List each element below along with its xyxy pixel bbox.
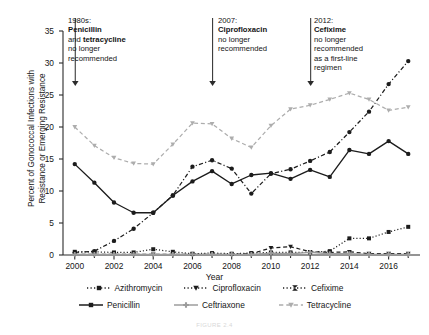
data-point-tetracycline-2002 xyxy=(112,156,117,160)
series-ciprofloxacin xyxy=(73,59,411,255)
x-tick-label-2006: 2006 xyxy=(175,261,209,271)
data-point-ciprofloxacin-2008 xyxy=(230,166,234,170)
data-point-ciprofloxacin-2006 xyxy=(190,164,194,168)
y-tick-label-5: 5 xyxy=(32,218,54,228)
x-tick-label-2010: 2010 xyxy=(254,261,288,271)
data-point-azithromycin-2004 xyxy=(151,247,155,251)
data-point-penicillin-2010 xyxy=(269,171,273,175)
legend-swatch-cefixime xyxy=(282,282,308,294)
legend-label-ciprofloxacin: Ciprofloxacin xyxy=(212,283,260,293)
annotation-2012-line3: no longer xyxy=(314,35,402,44)
series-line-penicillin xyxy=(75,141,408,213)
data-point-ciprofloxacin-2002 xyxy=(112,239,116,243)
legend-swatch-ciprofloxacin xyxy=(183,282,209,294)
annotation-2012-line2: Cefixime xyxy=(314,25,402,34)
legend-item-azithromycin[interactable]: Azithromycin xyxy=(86,282,163,294)
legend-swatch-tetracycline xyxy=(278,299,304,311)
x-tick-label-2000: 2000 xyxy=(58,261,92,271)
annotation-1980s-line4: no longer xyxy=(68,44,152,53)
annotation-2007-line3: no longer xyxy=(218,35,302,44)
legend-swatch-ceftriaxone xyxy=(173,299,199,311)
legend-label-penicillin: Penicillin xyxy=(107,300,140,310)
data-point-ciprofloxacin-2007 xyxy=(210,158,214,162)
data-point-penicillin-2013 xyxy=(328,175,332,179)
legend-item-cefixime[interactable]: Cefixime xyxy=(282,282,344,294)
x-tick-label-2014: 2014 xyxy=(332,261,366,271)
data-point-penicillin-2012 xyxy=(308,168,312,172)
data-point-penicillin-2002 xyxy=(112,200,116,204)
y-tick-label-15: 15 xyxy=(32,154,54,164)
data-point-ciprofloxacin-2013 xyxy=(328,150,332,154)
x-axis-title: Year xyxy=(0,272,429,282)
annotation-2012: 2012: Cefixime no longer recommended as … xyxy=(314,16,402,72)
figure-container: Percent of Gonococcal Infections with Re… xyxy=(0,0,429,335)
chart-legend: AzithromycinCiprofloxacinCefixime Penici… xyxy=(0,282,429,311)
annotation-2012-line4: recommended xyxy=(314,44,402,53)
annotation-1980s-line1: 1980s: xyxy=(68,16,152,25)
data-point-ciprofloxacin-2011 xyxy=(288,167,292,171)
y-tick-label-35: 35 xyxy=(32,26,54,36)
legend-item-penicillin[interactable]: Penicillin xyxy=(78,299,140,311)
data-point-tetracycline-2017 xyxy=(406,105,411,109)
data-point-ciprofloxacin-2017 xyxy=(406,59,410,63)
data-point-penicillin-2014 xyxy=(347,148,351,152)
annotation-2007-line1: 2007: xyxy=(218,16,302,25)
data-point-penicillin-2017 xyxy=(406,152,410,156)
y-tick-label-25: 25 xyxy=(32,90,54,100)
legend-item-ciprofloxacin[interactable]: Ciprofloxacin xyxy=(183,282,260,294)
data-point-penicillin-2016 xyxy=(386,139,390,143)
legend-row-2: PenicillinCeftriaxoneTetracycline xyxy=(0,299,429,311)
legend-item-tetracycline[interactable]: Tetracycline xyxy=(278,299,351,311)
data-point-penicillin-2008 xyxy=(230,182,234,186)
data-point-ciprofloxacin-2016 xyxy=(386,82,390,86)
x-tick-label-2002: 2002 xyxy=(97,261,131,271)
legend-label-ceftriaxone: Ceftriaxone xyxy=(202,300,245,310)
series-tetracycline xyxy=(72,91,410,166)
series-penicillin xyxy=(73,139,411,215)
y-tick-label-20: 20 xyxy=(32,122,54,132)
data-point-penicillin-2015 xyxy=(367,152,371,156)
data-point-penicillin-2005 xyxy=(171,193,175,197)
legend-label-tetracycline: Tetracycline xyxy=(307,300,351,310)
annotation-2007: 2007: Ciprofloxacin no longer recommende… xyxy=(218,16,302,54)
series-line-ciprofloxacin xyxy=(75,61,408,252)
series-line-azithromycin xyxy=(75,227,408,254)
data-point-penicillin-2007 xyxy=(210,169,214,173)
data-point-penicillin-2003 xyxy=(131,211,135,215)
data-point-penicillin-2001 xyxy=(92,180,96,184)
annotation-1980s-line2: Penicillin xyxy=(68,25,152,34)
y-tick-label-10: 10 xyxy=(32,186,54,196)
legend-label-azithromycin: Azithromycin xyxy=(115,283,163,293)
annotation-2007-line4: recommended xyxy=(218,44,302,53)
series-line-tetracycline xyxy=(75,93,408,164)
data-point-azithromycin-2017 xyxy=(406,225,410,229)
data-point-tetracycline-2009 xyxy=(249,146,254,150)
y-tick-label-0: 0 xyxy=(32,250,54,260)
annotation-2012-line1: 2012: xyxy=(314,16,402,25)
x-tick-label-2016: 2016 xyxy=(372,261,406,271)
series-azithromycin xyxy=(73,225,410,256)
data-point-tetracycline-2003 xyxy=(131,162,136,166)
data-point-azithromycin-2014 xyxy=(347,236,351,240)
x-tick-label-2008: 2008 xyxy=(215,261,249,271)
data-point-ciprofloxacin-2009 xyxy=(249,191,253,195)
annotation-2012-line6: regimen xyxy=(314,63,402,72)
x-tick-label-2012: 2012 xyxy=(293,261,327,271)
figure-caption: FIGURE 2.4 xyxy=(0,322,429,328)
legend-label-cefixime: Cefixime xyxy=(311,283,344,293)
legend-swatch-penicillin xyxy=(78,299,104,311)
legend-row-1: AzithromycinCiprofloxacinCefixime xyxy=(0,282,429,294)
series-ceftriaxone xyxy=(72,250,410,257)
data-point-azithromycin-2016 xyxy=(387,230,391,234)
data-point-penicillin-2009 xyxy=(249,173,253,177)
data-point-penicillin-2000 xyxy=(73,162,77,166)
data-point-penicillin-2004 xyxy=(151,211,155,215)
data-point-ciprofloxacin-2014 xyxy=(347,130,351,134)
data-point-ciprofloxacin-2015 xyxy=(367,109,371,113)
series-line-cefixime xyxy=(75,247,408,255)
legend-swatch-azithromycin xyxy=(86,282,112,294)
legend-item-ceftriaxone[interactable]: Ceftriaxone xyxy=(173,299,245,311)
data-point-penicillin-2011 xyxy=(288,177,292,181)
data-point-tetracycline-2015 xyxy=(367,98,372,102)
x-tick-label-2004: 2004 xyxy=(136,261,170,271)
